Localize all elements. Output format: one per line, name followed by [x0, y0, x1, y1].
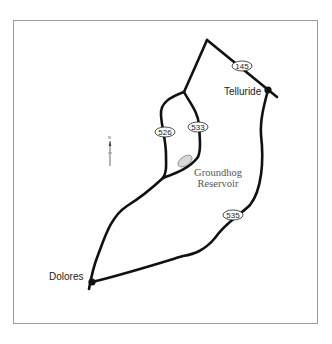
road-535 — [92, 90, 268, 282]
svg-text:535: 535 — [226, 211, 240, 220]
dolores-label: Dolores — [49, 271, 83, 282]
svg-text:145: 145 — [235, 62, 249, 71]
svg-text:526: 526 — [158, 128, 172, 137]
telluride-label: Telluride — [224, 86, 262, 97]
dolores-dot — [88, 278, 95, 285]
route-shield-535: 535 — [223, 210, 243, 220]
route-shield-526: 526 — [155, 127, 175, 137]
reservoir-label-line2: Reservoir — [198, 178, 239, 189]
svg-text:533: 533 — [191, 123, 205, 132]
road-map: 145 526 533 535 Telluride Dolores Ground… — [0, 0, 332, 344]
road-north-spur — [184, 40, 207, 92]
route-shield-145: 145 — [232, 61, 252, 71]
north-arrow-icon: N — [108, 135, 112, 166]
route-shield-533: 533 — [188, 122, 208, 132]
svg-text:N: N — [108, 135, 111, 140]
telluride-dot — [264, 86, 271, 93]
reservoir-label-line1: Groundhog — [194, 167, 243, 178]
